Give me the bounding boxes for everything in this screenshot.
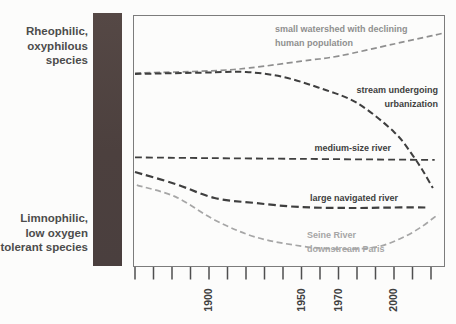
annotation-small-watershed: small watershed with declining human pop… — [275, 23, 425, 50]
y-axis-bottom-label: Limnophilic, low oxygen tolerant species — [0, 211, 88, 255]
x-tick-label-1900: 1900 — [202, 280, 216, 320]
annotation-line: human population — [275, 37, 425, 51]
y-axis-bottom-label-line: low oxygen — [0, 226, 88, 241]
annotation-line: small watershed with declining — [275, 23, 425, 37]
y-axis-bottom-label-line: tolerant species — [0, 240, 88, 255]
annotation-line: downstream Paris — [307, 243, 417, 257]
y-axis-top-label-line: Rheophilic, — [0, 24, 88, 39]
y-axis-top-label-line: oxyphilous — [0, 39, 88, 54]
annotation-large-navigated-river: large navigated river — [296, 192, 398, 206]
annotation-stream-urbanization: stream undergoing urbanization — [338, 84, 438, 111]
figure-fish-species-gradient-chart: Rheophilic, oxyphilous species Limnophil… — [0, 0, 456, 324]
annotation-seine-river: Seine River downstream Paris — [307, 229, 417, 256]
annotation-line: urbanization — [338, 98, 438, 112]
x-tick-label-1970: 1970 — [332, 280, 346, 320]
annotation-line: large navigated river — [296, 192, 398, 206]
species-gradient-bar — [93, 13, 122, 266]
annotation-medium-size-river: medium-size river — [291, 142, 391, 156]
y-axis-top-label-line: species — [0, 53, 88, 68]
x-tick-label-1950: 1950 — [295, 280, 309, 320]
annotation-line: Seine River — [307, 229, 417, 243]
x-tick-label-2000: 2000 — [387, 280, 401, 320]
y-axis-bottom-label-line: Limnophilic, — [0, 211, 88, 226]
annotation-line: stream undergoing — [338, 84, 438, 98]
y-axis-top-label: Rheophilic, oxyphilous species — [0, 24, 88, 68]
annotation-line: medium-size river — [291, 142, 391, 156]
